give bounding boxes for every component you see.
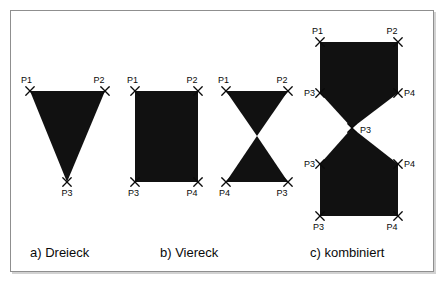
- viereck-bowtie-point-label: P4: [219, 188, 230, 198]
- kombiniert-shape-point-label: P1: [312, 26, 323, 36]
- figure-root: P1P2P3P1P2P3P4P1P2P4P3P1P2P3P4P3P3P4P3P4…: [0, 0, 445, 288]
- dreieck-triangle-point-label: P2: [93, 75, 104, 85]
- caption-a: a) Dreieck: [30, 245, 90, 260]
- kombiniert-shape-point-label: P2: [386, 26, 397, 36]
- viereck-rectangle-point-label: P3: [128, 188, 139, 198]
- captions-layer: a) Dreieckb) Viereckc) kombiniert: [30, 245, 385, 260]
- viereck-bowtie-point-label: P3: [276, 188, 287, 198]
- kombiniert-shape-body: [320, 42, 398, 128]
- diagram-canvas: P1P2P3P1P2P3P4P1P2P4P3P1P2P3P4P3P3P4P3P4…: [0, 0, 445, 288]
- dreieck-triangle-point-label: P3: [61, 188, 72, 198]
- viereck-bowtie-part-2: [226, 136, 288, 182]
- viereck-bowtie-point-label: P2: [276, 75, 287, 85]
- shapes-layer: [30, 42, 398, 216]
- kombiniert-shape-point-label: P3: [360, 125, 371, 135]
- viereck-bowtie-body: [226, 91, 288, 136]
- viereck-rectangle-point-label: P4: [186, 188, 197, 198]
- viereck-rectangle-body: [135, 91, 198, 182]
- kombiniert-shape-point-label: P4: [386, 222, 397, 232]
- dreieck-triangle-point-label: P1: [21, 75, 32, 85]
- kombiniert-shape-point-label: P4: [404, 88, 415, 98]
- kombiniert-shape-point-label: P3: [304, 88, 315, 98]
- kombiniert-shape-point-label: P3: [313, 222, 324, 232]
- caption-c: c) kombiniert: [310, 245, 385, 260]
- dreieck-triangle-body: [30, 91, 105, 182]
- caption-b: b) Viereck: [160, 245, 219, 260]
- kombiniert-shape-point-label: P4: [404, 159, 415, 169]
- viereck-bowtie-point-label: P1: [218, 75, 229, 85]
- kombiniert-shape-point-label: P3: [304, 159, 315, 169]
- viereck-rectangle-point-label: P1: [127, 75, 138, 85]
- kombiniert-shape-part-2: [320, 128, 398, 216]
- viereck-rectangle-point-label: P2: [186, 75, 197, 85]
